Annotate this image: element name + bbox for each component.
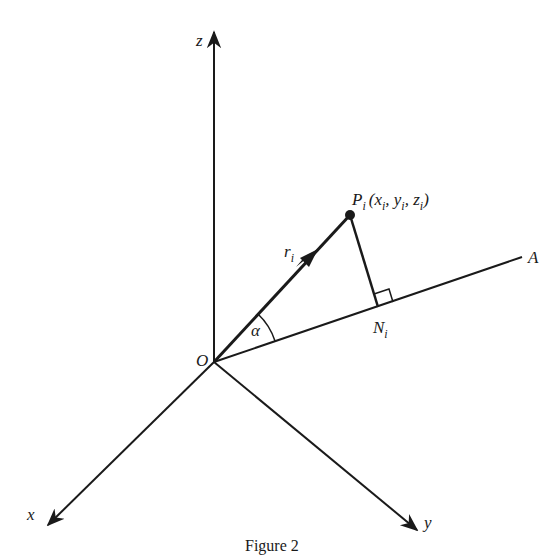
alpha-label: α xyxy=(251,321,261,340)
z-axis-label: z xyxy=(195,31,203,50)
y-axis xyxy=(214,362,417,530)
figure-diagram: z x y O A α ri Ni Pi(xi, yi, zi) Figure … xyxy=(0,0,555,560)
vector-r xyxy=(214,215,350,362)
x-axis-label: x xyxy=(26,505,35,524)
point-p-label: Pi(xi, yi, zi) xyxy=(351,190,429,213)
vector-r-label: ri xyxy=(284,242,294,265)
foot-n-label: Ni xyxy=(372,318,388,341)
perpendicular-pn xyxy=(350,215,378,307)
angle-arc-icon xyxy=(258,314,275,341)
origin-label: O xyxy=(196,351,208,370)
point-p xyxy=(345,210,355,220)
figure-caption: Figure 2 xyxy=(245,537,299,555)
y-axis-label: y xyxy=(422,513,432,532)
line-a-label: A xyxy=(527,248,539,267)
x-axis xyxy=(48,362,214,525)
